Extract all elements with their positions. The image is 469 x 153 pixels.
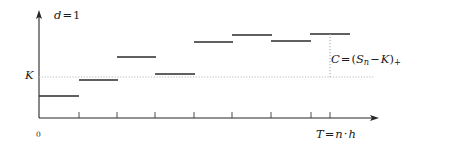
payoff-plus-subscript: + [394,57,401,67]
horizon-steps: n [335,127,342,141]
horizon-formula-label: T=n·h [316,129,356,141]
payoff-lhs: C [331,52,340,66]
horizon-stepsize: h [348,127,355,141]
payoff-minus: − [369,52,381,66]
diagram-canvas [0,0,469,153]
dimension-equals: = [61,8,73,22]
step-payoff-diagram: d=1 K 0 C=(Sn−K)+ T=n·h [0,0,469,153]
x-axis-ticks [79,112,330,118]
step-path [39,34,350,96]
axes-group [36,10,379,121]
dimension-label: d=1 [54,10,80,22]
horizon-equals: = [324,127,336,141]
payoff-equals: = [340,52,352,66]
payoff-underlying: S [356,52,364,66]
strike-axis-label: K [25,70,34,82]
dimension-value: 1 [73,8,80,22]
horizon-lhs: T [316,127,324,141]
origin-label: 0 [36,131,41,139]
payoff-formula-label: C=(Sn−K)+ [331,54,401,67]
